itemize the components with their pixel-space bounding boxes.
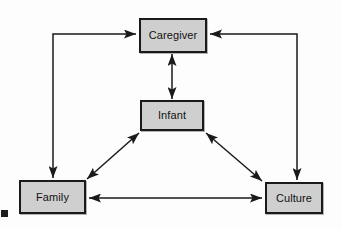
node-infant[interactable]: Infant bbox=[140, 100, 204, 131]
corner-artifact-mark bbox=[1, 210, 8, 217]
node-infant-label: Infant bbox=[158, 110, 186, 121]
diagram-canvas: Caregiver Infant Family Culture bbox=[0, 0, 342, 230]
connector-culture-caregiver bbox=[210, 34, 297, 180]
connector-family-caregiver bbox=[53, 34, 136, 178]
node-family-label: Family bbox=[36, 192, 69, 203]
node-caregiver-label: Caregiver bbox=[149, 30, 198, 41]
node-family[interactable]: Family bbox=[19, 180, 86, 214]
connector-infant-culture bbox=[206, 133, 262, 181]
node-culture[interactable]: Culture bbox=[265, 182, 323, 214]
node-caregiver[interactable]: Caregiver bbox=[139, 18, 207, 53]
connector-infant-family bbox=[87, 133, 139, 179]
node-culture-label: Culture bbox=[276, 193, 312, 204]
